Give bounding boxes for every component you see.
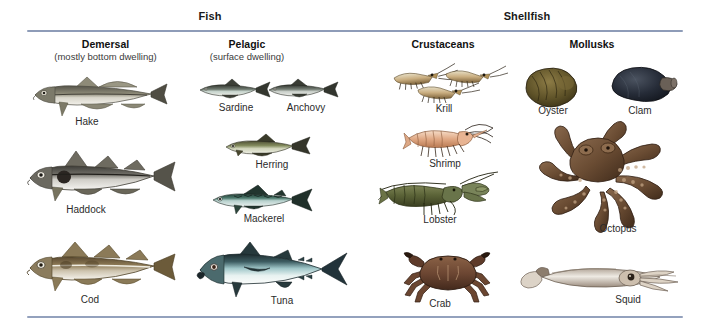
specimen-hake: Hake <box>25 72 175 120</box>
specimen-sardine-caption: Sardine <box>219 102 253 113</box>
specimen-tuna-caption: Tuna <box>271 295 293 306</box>
specimen-clam-caption: Clam <box>628 105 651 116</box>
specimen-anchovy-caption: Anchovy <box>287 102 325 113</box>
specimen-crab-caption: Crab <box>429 298 451 309</box>
specimen-octopus-caption: Octopus <box>599 223 636 234</box>
specimen-herring-caption: Herring <box>256 159 289 170</box>
specimen-mackerel: Mackerel <box>208 183 318 217</box>
mackerel-illustration <box>208 183 318 217</box>
squid-illustration <box>518 256 683 302</box>
specimen-octopus: Octopus <box>520 118 695 234</box>
specimen-sardine: Sardine <box>196 76 274 106</box>
specimen-haddock-caption: Haddock <box>66 204 105 215</box>
specimen-anchovy: Anchovy <box>266 76 342 106</box>
column-header-pelagic-name: Pelagic <box>177 38 317 51</box>
specimen-haddock: Haddock <box>22 148 182 210</box>
column-header-demersal-name: Demersal <box>33 38 178 51</box>
krill-illustration <box>392 63 502 107</box>
tuna-illustration <box>192 239 352 301</box>
column-header-pelagic: Pelagic (surface dwelling) <box>177 38 317 63</box>
specimen-krill-caption: Krill <box>436 103 453 114</box>
crab-illustration <box>400 242 496 304</box>
specimen-herring: Herring <box>222 131 314 163</box>
specimen-lobster: Lobster <box>378 170 506 224</box>
specimen-crab: Crab <box>400 242 496 304</box>
bottom-divider-rule <box>27 316 683 318</box>
specimen-lobster-caption: Lobster <box>423 214 456 225</box>
octopus-illustration <box>520 118 695 234</box>
group-title-fish-label: Fish <box>198 10 221 22</box>
group-title-shellfish-label: Shellfish <box>504 10 551 22</box>
specimen-cod: Cod <box>22 237 182 299</box>
column-header-demersal: Demersal (mostly bottom dwelling) <box>33 38 178 63</box>
column-header-crustaceans-name: Crustaceans <box>378 38 508 51</box>
specimen-shrimp: Shrimp <box>403 118 503 166</box>
specimen-krill: Krill <box>392 63 502 107</box>
column-header-pelagic-sub: (surface dwelling) <box>177 51 317 63</box>
haddock-illustration <box>22 148 182 210</box>
clam-illustration <box>608 64 680 110</box>
column-header-crustaceans: Crustaceans <box>378 38 508 51</box>
specimen-tuna: Tuna <box>192 239 352 301</box>
specimen-squid: Squid <box>518 256 683 302</box>
group-title-shellfish: Shellfish <box>472 10 582 22</box>
column-header-demersal-sub: (mostly bottom dwelling) <box>33 51 178 63</box>
seafood-categories-figure: Fish Shellfish Demersal (mostly bottom d… <box>0 0 711 329</box>
specimen-oyster-caption: Oyster <box>538 105 567 116</box>
specimen-mackerel-caption: Mackerel <box>244 213 285 224</box>
specimen-shrimp-caption: Shrimp <box>429 158 461 169</box>
oyster-illustration <box>518 64 588 110</box>
cod-illustration <box>22 237 182 299</box>
group-title-fish: Fish <box>160 10 260 22</box>
specimen-oyster: Oyster <box>518 64 588 110</box>
specimen-cod-caption: Cod <box>81 294 99 305</box>
column-header-mollusks: Mollusks <box>528 38 656 51</box>
hake-illustration <box>25 72 175 120</box>
specimen-hake-caption: Hake <box>75 116 98 127</box>
column-header-mollusks-name: Mollusks <box>528 38 656 51</box>
top-divider-rule <box>27 30 683 32</box>
specimen-squid-caption: Squid <box>615 294 641 305</box>
specimen-clam: Clam <box>608 64 680 110</box>
